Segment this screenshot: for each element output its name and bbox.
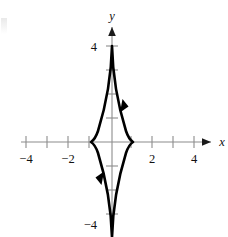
- y-axis-label: y: [107, 9, 115, 23]
- x-axis-arrowhead: [202, 138, 211, 146]
- parametric-curve-plot: −4 −2 2 4 x 4 −4 y: [0, 0, 228, 237]
- x-tick-label-4: 4: [191, 152, 198, 166]
- x-tick-label-2: 2: [149, 152, 155, 166]
- x-axis-label: x: [218, 135, 225, 149]
- direction-arrow-upper-right: [120, 99, 129, 113]
- x-tick-label--4: −4: [19, 152, 33, 166]
- figure-canvas: −4 −2 2 4 x 4 −4 y: [0, 0, 228, 237]
- y-axis-arrowhead: [108, 27, 116, 36]
- direction-arrow-lower-left: [96, 172, 105, 186]
- y-tick-label--4: −4: [84, 218, 98, 232]
- x-tick-label--2: −2: [61, 152, 74, 166]
- y-tick-label-4: 4: [91, 40, 98, 54]
